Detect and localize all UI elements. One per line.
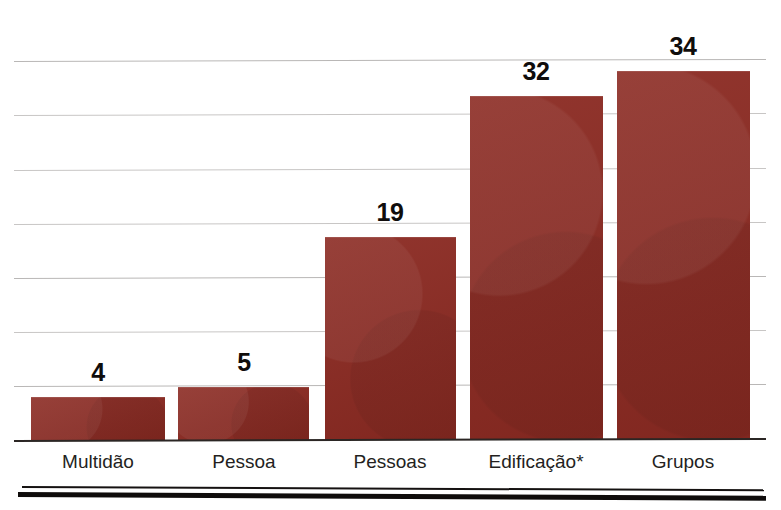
value-label-grupos: 34 bbox=[643, 34, 723, 59]
category-label-pessoas: Pessoas bbox=[320, 452, 460, 472]
footer-rule-thick bbox=[18, 492, 766, 501]
value-label-pessoa: 5 bbox=[204, 350, 284, 375]
value-label-edificacao: 32 bbox=[496, 59, 576, 84]
value-label-multidao: 4 bbox=[58, 360, 138, 385]
category-label-multidao: Multidão bbox=[28, 452, 168, 472]
bar-grupos bbox=[617, 71, 750, 440]
value-label-pessoas: 19 bbox=[350, 200, 430, 225]
gridline-35 bbox=[14, 59, 766, 62]
category-label-grupos: Grupos bbox=[613, 452, 753, 472]
chart-figure: 4 5 19 32 34 Multidão Pessoa Pessoas Edi… bbox=[0, 0, 781, 510]
footer-rule-thin bbox=[22, 486, 764, 491]
category-label-edificacao: Edificação* bbox=[466, 452, 606, 472]
bar-pessoas bbox=[325, 237, 456, 440]
plot-area: 4 5 19 32 34 bbox=[0, 0, 781, 441]
bar-pessoa bbox=[178, 387, 309, 440]
bar-edificacao bbox=[470, 96, 603, 440]
bar-multidao bbox=[31, 397, 165, 440]
category-label-pessoa: Pessoa bbox=[174, 452, 314, 472]
